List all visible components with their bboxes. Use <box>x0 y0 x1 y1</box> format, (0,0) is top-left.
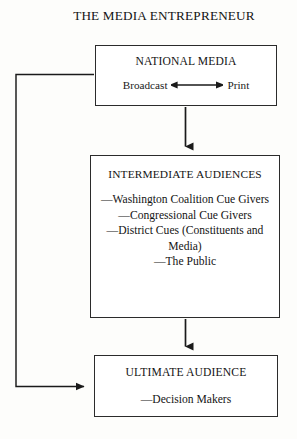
list-item: —Washington Coalition Cue Givers <box>94 192 276 208</box>
list-item: —The Public <box>94 254 276 270</box>
box-intermediate-audiences: INTERMEDIATE AUDIENCES —Washington Coali… <box>90 155 280 318</box>
box-ultimate-audience-title: ULTIMATE AUDIENCE <box>95 366 277 379</box>
box-intermediate-audiences-title: INTERMEDIATE AUDIENCES <box>91 168 279 180</box>
broadcast-print-relation: Broadcast Print <box>96 79 276 91</box>
diagram-title: THE MEDIA ENTREPRENEUR <box>38 8 290 24</box>
print-label: Print <box>227 79 249 91</box>
list-item: —Congressional Cue Givers <box>94 208 276 224</box>
intermediate-audiences-list: —Washington Coalition Cue Givers —Congre… <box>91 192 279 270</box>
double-headed-arrow-icon <box>171 80 223 90</box>
arrow-right-icon-feedback-loop <box>16 75 94 387</box>
box-national-media: NATIONAL MEDIA Broadcast Print <box>95 45 277 106</box>
box-ultimate-audience: ULTIMATE AUDIENCE —Decision Makers <box>94 355 278 417</box>
broadcast-label: Broadcast <box>123 79 168 91</box>
box-national-media-title: NATIONAL MEDIA <box>96 55 276 68</box>
diagram-canvas: THE MEDIA ENTREPRENEUR <box>0 0 297 439</box>
list-item: —Decision Makers <box>95 393 277 406</box>
list-item: —District Cues (Constituents and Media) <box>94 223 276 254</box>
